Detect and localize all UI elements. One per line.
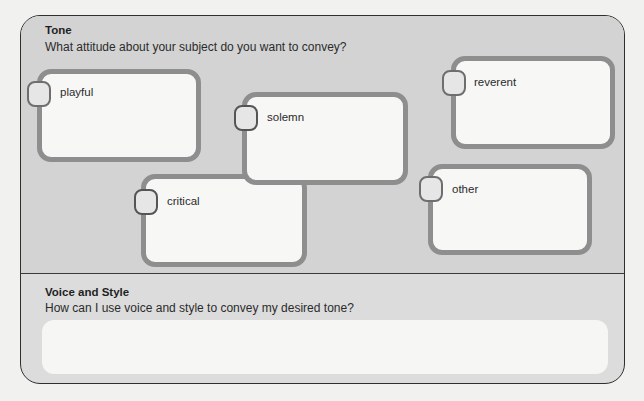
voice-and-style-prompt: How can I use voice and style to convey … [45, 301, 354, 315]
solemn-checkbox[interactable] [234, 105, 258, 131]
other-checkbox[interactable] [419, 176, 443, 202]
tone-title: Tone [45, 24, 72, 36]
playful-checkbox[interactable] [27, 81, 51, 107]
tone-label-reverent: reverent [474, 76, 516, 88]
tone-box-other[interactable] [428, 164, 592, 255]
tone-label-other: other [452, 183, 478, 195]
tone-label-solemn: solemn [267, 111, 304, 123]
tone-label-critical: critical [167, 195, 200, 207]
tone-label-playful: playful [60, 86, 93, 98]
critical-checkbox[interactable] [134, 189, 158, 215]
tone-prompt: What attitude about your subject do you … [45, 40, 347, 54]
tone-box-playful[interactable] [37, 69, 201, 162]
voice-and-style-title: Voice and Style [45, 286, 129, 298]
tone-box-reverent[interactable] [451, 56, 615, 149]
tone-worksheet-panel: Tone What attitude about your subject do… [20, 15, 625, 384]
tone-box-critical[interactable] [141, 174, 307, 267]
voice-and-style-section: Voice and Style How can I use voice and … [21, 275, 624, 384]
reverent-checkbox[interactable] [442, 70, 466, 96]
tone-section: Tone What attitude about your subject do… [21, 16, 624, 274]
tone-box-solemn[interactable] [242, 92, 408, 185]
voice-and-style-answer-field[interactable] [42, 320, 608, 374]
